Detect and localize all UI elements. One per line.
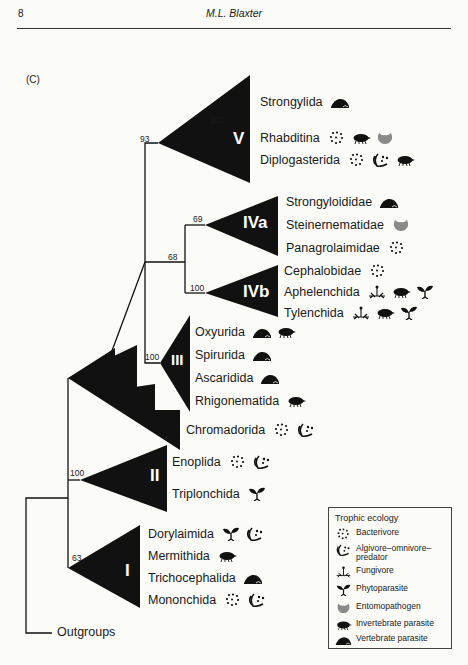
support-value-I: 63 xyxy=(72,553,81,563)
invertebrate-parasite-icon xyxy=(286,394,306,408)
bacterivore-icon xyxy=(327,131,347,145)
legend-item-fungivore: Fungivore xyxy=(335,566,394,578)
taxon-rhabditina: Rhabditina xyxy=(260,131,395,145)
taxon-enoplida: Enoplida xyxy=(172,455,272,469)
algivore-omnivore-predator-icon xyxy=(371,153,391,167)
vertebrate-parasite-icon xyxy=(335,634,352,646)
algivore-omnivore-predator-icon xyxy=(335,544,352,556)
taxon-label: Trichocephalida xyxy=(148,571,236,585)
bacterivore-icon xyxy=(368,264,388,278)
taxon-label: Diplogasterida xyxy=(260,153,340,167)
clade-label-III: III xyxy=(171,351,184,368)
taxon-panagrolaimidae: Panagrolaimidae xyxy=(286,241,407,255)
support-value-IV: 68 xyxy=(168,252,177,262)
entomopathogen-icon xyxy=(375,131,395,145)
bacterivore-icon xyxy=(335,528,352,540)
support-value-II: 100 xyxy=(70,468,84,478)
bacterivore-icon xyxy=(228,455,248,469)
taxon-label: Spirurida xyxy=(195,348,245,362)
taxon-mermithida: Mermithida xyxy=(148,549,237,563)
taxon-label: Mermithida xyxy=(148,549,210,563)
invertebrate-parasite-icon xyxy=(217,549,237,563)
clade-label-IVa: IVa xyxy=(243,213,268,233)
bacterivore-icon xyxy=(223,593,243,607)
phytoparasite-icon xyxy=(221,527,241,541)
legend-item-bacterivore: Bacterivore xyxy=(335,528,399,540)
invertebrate-parasite-icon xyxy=(351,131,371,145)
taxon-strongylida: Strongylida xyxy=(260,95,350,109)
invertebrate-parasite-icon xyxy=(391,285,411,299)
taxon-label: Mononchida xyxy=(148,593,216,607)
fungivore-icon xyxy=(351,306,371,320)
bacterivore-icon xyxy=(387,241,407,255)
vertebrate-parasite-icon xyxy=(330,95,350,109)
legend-item-entomopathogen: Entomopathogen xyxy=(335,602,421,614)
algivore-omnivore-predator-icon xyxy=(245,527,265,541)
taxon-label: Dorylaimida xyxy=(148,527,214,541)
support-value-V-inner: 100 xyxy=(210,115,224,125)
taxon-steinernematidae: Steinernematidae xyxy=(286,218,411,232)
clade-label-IVb: IVb xyxy=(243,282,269,302)
taxon-label: Rhigonematida xyxy=(195,394,279,408)
taxon-oxyurida: Oxyurida xyxy=(195,325,296,339)
support-value-III: 100 xyxy=(145,352,159,362)
taxon-trichocephalida: Trichocephalida xyxy=(148,571,263,585)
legend-item-algivore-omnivore-predator: Algivore–omnivore–predator xyxy=(335,544,446,562)
vertebrate-parasite-icon xyxy=(260,371,280,385)
vertebrate-parasite-icon xyxy=(243,571,263,585)
taxon-dorylaimida: Dorylaimida xyxy=(148,527,265,541)
taxon-outgroups: Outgroups xyxy=(57,625,118,639)
entomopathogen-icon xyxy=(335,602,352,614)
support-value-IVb: 100 xyxy=(190,283,204,293)
taxon-label: Rhabditina xyxy=(260,131,320,145)
phytoparasite-icon xyxy=(415,285,435,299)
legend-title: Trophic ecology xyxy=(335,513,398,523)
legend-item-vertebrate-parasite: Vertebrate parasite xyxy=(335,634,428,646)
phytoparasite-icon xyxy=(247,487,267,501)
taxon-diplogasterida: Diplogasterida xyxy=(260,153,415,167)
taxon-rhigonematida: Rhigonematida xyxy=(195,394,306,408)
clade-label-II: II xyxy=(150,466,159,486)
taxon-chromadorida: Chromadorida xyxy=(186,423,316,437)
invertebrate-parasite-icon xyxy=(276,325,296,339)
taxon-aphelenchida: Aphelenchida xyxy=(284,285,435,299)
taxon-label: Outgroups xyxy=(57,625,115,639)
taxon-label: Strongyloididae xyxy=(286,195,372,209)
taxon-strongyloididae: Strongyloididae xyxy=(286,195,399,209)
algivore-omnivore-predator-icon xyxy=(296,423,316,437)
taxon-mononchida: Mononchida xyxy=(148,593,267,607)
vertebrate-parasite-icon xyxy=(252,348,272,362)
taxon-label: Panagrolaimidae xyxy=(286,241,380,255)
taxon-label: Enoplida xyxy=(172,455,221,469)
taxon-label: Triplonchida xyxy=(172,487,240,501)
phytoparasite-icon xyxy=(335,584,352,596)
legend-item-phytoparasite: Phytoparasite xyxy=(335,584,408,596)
taxon-label: Cephalobidae xyxy=(284,264,361,278)
bacterivore-icon xyxy=(272,423,292,437)
taxon-label: Aphelenchida xyxy=(284,285,360,299)
algivore-omnivore-predator-icon xyxy=(247,593,267,607)
entomopathogen-icon xyxy=(391,218,411,232)
vertebrate-parasite-icon xyxy=(252,325,272,339)
clade-label-V: V xyxy=(233,129,244,149)
trophic-ecology-legend: Trophic ecology Bacterivore Algivore–omn… xyxy=(328,507,452,649)
invertebrate-parasite-icon xyxy=(375,306,395,320)
taxon-label: Chromadorida xyxy=(186,423,265,437)
phytoparasite-icon xyxy=(399,306,419,320)
taxon-label: Ascaridida xyxy=(195,371,253,385)
taxon-label: Tylenchida xyxy=(284,306,344,320)
taxon-tylenchida: Tylenchida xyxy=(284,306,419,320)
taxon-spirurida: Spirurida xyxy=(195,348,272,362)
support-value-IVa: 69 xyxy=(193,214,202,224)
taxon-label: Oxyurida xyxy=(195,325,245,339)
legend-item-invertebrate-parasite: Invertebrate parasite xyxy=(335,619,434,631)
taxon-ascaridida: Ascaridida xyxy=(195,371,280,385)
taxon-label: Steinernematidae xyxy=(286,218,384,232)
fungivore-icon xyxy=(367,285,387,299)
algivore-omnivore-predator-icon xyxy=(252,455,272,469)
clade-label-I: I xyxy=(125,561,130,581)
vertebrate-parasite-icon xyxy=(379,195,399,209)
support-value-V: 93 xyxy=(140,134,149,144)
taxon-cephalobidae: Cephalobidae xyxy=(284,264,388,278)
bacterivore-icon xyxy=(347,153,367,167)
